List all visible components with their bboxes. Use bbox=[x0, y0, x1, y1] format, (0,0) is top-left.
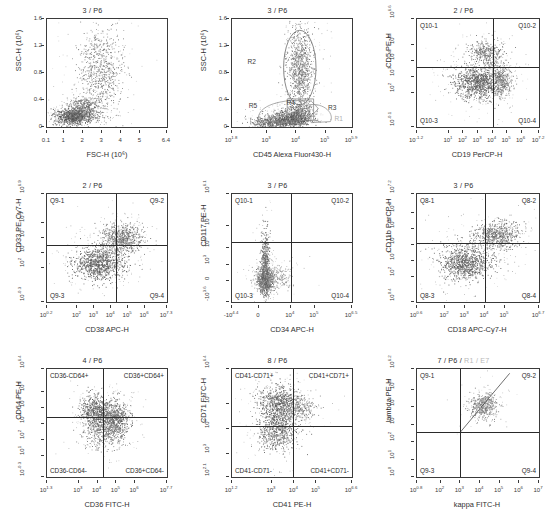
x-tick-mark bbox=[416, 305, 417, 308]
y-tick-mark bbox=[411, 389, 414, 390]
x-tick-label: 101.3 bbox=[40, 487, 53, 493]
x-tick-mark bbox=[139, 130, 140, 133]
scatter-dots-5 bbox=[232, 194, 352, 302]
quadrant-label: Q9-4 bbox=[522, 467, 536, 474]
x-tick-label: 105 bbox=[111, 487, 120, 493]
y-tick-mark bbox=[41, 237, 44, 238]
x-tick-label: 105 bbox=[320, 137, 329, 143]
quadrant-vertical-line[interactable] bbox=[116, 194, 117, 302]
quadrant-horizontal-line[interactable] bbox=[417, 67, 539, 68]
x-tick-mark bbox=[459, 480, 460, 483]
quadrant-horizontal-line[interactable] bbox=[232, 242, 352, 243]
plot-title-4: 2 / P6 bbox=[0, 181, 185, 190]
x-tick-label: 0 bbox=[256, 312, 259, 318]
y-tick-mark bbox=[41, 423, 44, 424]
quadrant-horizontal-line[interactable] bbox=[417, 432, 539, 433]
quadrant-vertical-line[interactable] bbox=[460, 369, 461, 477]
y-tick-mark bbox=[226, 45, 229, 46]
x-tick-mark bbox=[76, 305, 77, 308]
quadrant-vertical-line[interactable] bbox=[493, 19, 494, 127]
y-tick-mark bbox=[41, 391, 44, 392]
quadrant-label: Q9-2 bbox=[522, 372, 536, 379]
quadrant-horizontal-line[interactable] bbox=[232, 426, 352, 427]
y-tick-mark bbox=[411, 18, 414, 19]
x-tick-mark bbox=[538, 130, 539, 133]
gate-label-R3[interactable]: R3 bbox=[328, 104, 336, 111]
quadrant-label: CD41+CD71+ bbox=[309, 372, 349, 379]
y-tick-mark bbox=[411, 368, 414, 369]
plot-title-7: 4 / P6 bbox=[0, 356, 185, 365]
x-tick-label: 102 bbox=[72, 312, 81, 318]
x-tick-mark bbox=[416, 480, 417, 483]
quadrant-label: CD41-CD71+ bbox=[235, 372, 274, 379]
y-tick-mark bbox=[226, 368, 229, 369]
y-tick-mark bbox=[411, 76, 414, 77]
quadrant-label: Q8-3 bbox=[420, 292, 434, 299]
plot-title-primary: 7 / P6 / bbox=[438, 356, 465, 365]
gate-label-R1[interactable]: R1 bbox=[335, 115, 343, 122]
quadrant-horizontal-line[interactable] bbox=[47, 245, 167, 246]
gate-label-R5[interactable]: R5 bbox=[249, 102, 257, 109]
plot-panel-4: 2 / P6 Q9-1Q9-2Q9-3Q9-4 10-0.31021031041… bbox=[0, 175, 185, 350]
y-tick-mark bbox=[226, 72, 229, 73]
x-tick-mark bbox=[290, 305, 291, 308]
x-axis-title-9: kappa FITC-H bbox=[416, 500, 538, 509]
quadrant-label: Q10-1 bbox=[235, 197, 253, 204]
x-tick-label: 106.7 bbox=[532, 312, 545, 318]
x-tick-mark bbox=[538, 480, 539, 483]
x-tick-mark bbox=[440, 480, 441, 483]
quadrant-vertical-line[interactable] bbox=[293, 369, 294, 477]
y-tick-mark bbox=[226, 301, 229, 302]
x-tick-label: 100.2 bbox=[40, 312, 53, 318]
y-tick-mark bbox=[41, 18, 44, 19]
quadrant-horizontal-line[interactable] bbox=[47, 417, 167, 418]
y-tick-mark bbox=[41, 126, 44, 127]
y-tick-mark bbox=[226, 428, 229, 429]
x-tick-mark bbox=[144, 305, 145, 308]
quadrant-label: CD41+CD71- bbox=[310, 467, 349, 474]
x-axis-title-8: CD41 PE-H bbox=[231, 500, 353, 509]
x-tick-mark bbox=[351, 305, 352, 308]
x-tick-mark bbox=[127, 305, 128, 308]
x-tick-mark bbox=[46, 130, 47, 133]
plot-panel-2: 3 / P6 R2R5R4R3R1 00.40.81.21.6 101.8103… bbox=[185, 0, 370, 175]
x-tick-mark bbox=[295, 130, 296, 133]
x-tick-label: 107.7 bbox=[160, 487, 173, 493]
y-tick-mark bbox=[226, 280, 229, 281]
quadrant-horizontal-line[interactable] bbox=[417, 243, 539, 244]
x-tick-label: 106 bbox=[514, 487, 523, 493]
quadrant-label: Q9-2 bbox=[150, 197, 164, 204]
plot-panel-6: 3 / P6 Q8-1Q8-2Q8-3Q8-4 100.410210310410… bbox=[370, 175, 557, 350]
quadrant-label: CD36+CD64+ bbox=[124, 372, 164, 379]
y-tick-mark bbox=[41, 99, 44, 100]
quadrant-label: Q8-4 bbox=[522, 292, 536, 299]
x-tick-label: 6.4 bbox=[162, 137, 170, 143]
quadrant-label: Q10-4 bbox=[518, 117, 536, 124]
plot-title-5: 3 / P6 bbox=[185, 181, 370, 190]
x-tick-label: 104 bbox=[289, 487, 298, 493]
scatter-dots-9 bbox=[417, 369, 539, 477]
quadrant-vertical-line[interactable] bbox=[291, 194, 292, 302]
scatter-dots-1 bbox=[47, 19, 167, 127]
quadrant-label: Q10-3 bbox=[420, 117, 438, 124]
gate-diagonal-line[interactable] bbox=[460, 373, 509, 432]
x-tick-label: 106.5 bbox=[345, 312, 358, 318]
x-tick-label: 105 bbox=[309, 312, 318, 318]
x-tick-label: 105 bbox=[501, 137, 510, 143]
y-tick-mark bbox=[41, 72, 44, 73]
x-tick-mark bbox=[492, 130, 493, 133]
plot-title-8: 8 / P6 bbox=[185, 356, 370, 365]
gate-label-R4[interactable]: R4 bbox=[287, 99, 295, 106]
plot-panel-1: 3 / P6 00.40.81.21.6 0.1123456.4 SSC-H (… bbox=[0, 0, 185, 175]
x-tick-mark bbox=[315, 480, 316, 483]
quadrant-label: Q10-1 bbox=[420, 22, 438, 29]
x-axis-title-3: CD19 PerCP-H bbox=[416, 150, 538, 159]
quadrant-vertical-line[interactable] bbox=[485, 194, 486, 302]
quadrant-vertical-line[interactable] bbox=[103, 369, 104, 477]
gate-label-R2[interactable]: R2 bbox=[248, 58, 256, 65]
quadrant-label: Q9-4 bbox=[150, 292, 164, 299]
x-tick-mark bbox=[231, 305, 232, 308]
x-tick-label: 103 bbox=[266, 487, 275, 493]
y-axis-title-8: CD71 FITC-H bbox=[199, 353, 208, 449]
y-tick-mark bbox=[41, 368, 44, 369]
